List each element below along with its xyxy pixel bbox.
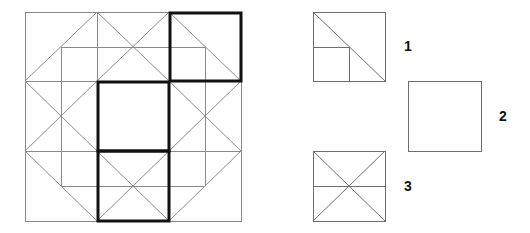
option-3-label: 3 [404,179,412,193]
option-1-label: 1 [404,39,412,53]
main-figure [0,0,530,233]
inner-lines [61,47,206,187]
grid-lines [25,12,242,222]
diagonal-lines [25,12,241,221]
option-2-label: 2 [499,109,507,123]
option-1-figure[interactable] [313,12,386,82]
option-2-figure[interactable] [409,82,482,152]
option-3-figure[interactable] [313,151,386,222]
highlight-middle-center [98,82,169,151]
